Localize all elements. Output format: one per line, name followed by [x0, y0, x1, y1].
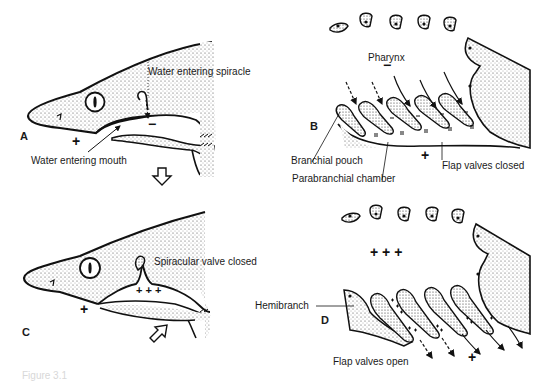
figure-caption: Figure 3.1: [22, 370, 67, 381]
panel-letter-b: B: [310, 120, 318, 132]
label-parabranchial-chamber: Parabranchial chamber: [292, 173, 395, 184]
pressure-sign-b-outside: +: [421, 148, 429, 162]
figure-canvas: [0, 0, 545, 384]
panel-d-gills: [316, 205, 530, 358]
label-flap-valves-open: Flap valves open: [333, 356, 409, 367]
label-water-entering-spiracle: Water entering spiracle: [148, 66, 250, 77]
label-spiracular-valve-closed: Spiracular valve closed: [154, 256, 257, 267]
label-branchial-pouch: Branchial pouch: [291, 155, 363, 166]
pressure-sign-c-inside: + + +: [136, 283, 161, 297]
panel-letter-d: D: [321, 314, 329, 326]
pressure-sign-a-inside: −: [148, 117, 156, 131]
panel-letter-a: A: [20, 130, 28, 142]
pressure-sign-c-outside: +: [80, 302, 88, 316]
pressure-sign-a-outside: +: [72, 134, 80, 148]
pressure-sign-b-pharynx: −: [383, 58, 391, 72]
label-water-entering-mouth: Water entering mouth: [31, 155, 127, 166]
panel-letter-c: C: [22, 326, 30, 338]
label-hemibranch: Hemibranch: [255, 300, 309, 311]
pressure-sign-d-outside: +: [468, 350, 476, 364]
pressure-sign-d-pharynx: + + +: [370, 245, 402, 259]
label-flap-valves-closed: Flap valves closed: [442, 160, 524, 171]
panel-c-head: [24, 212, 210, 342]
